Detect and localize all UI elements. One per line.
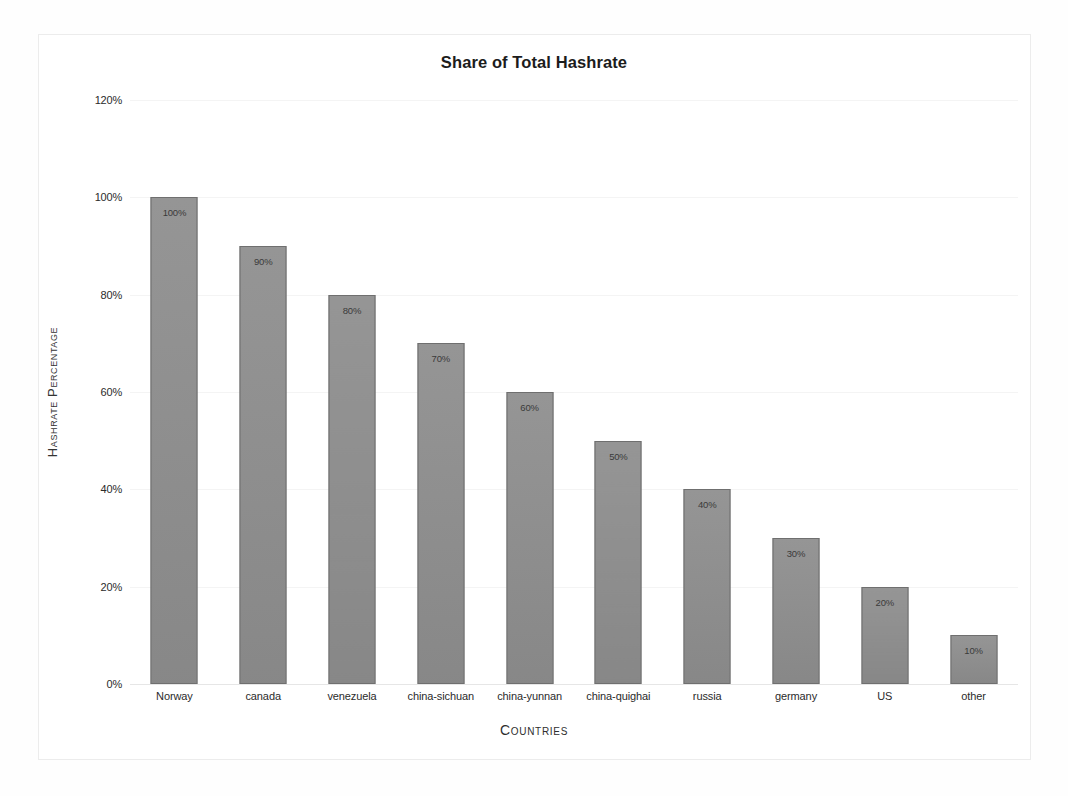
y-axis-tick: 60%	[101, 386, 122, 398]
bar-value-label: 100%	[152, 207, 197, 218]
x-axis-tick: Norway	[156, 690, 193, 702]
bar[interactable]: 100%	[151, 197, 198, 684]
bar-slot: 20%	[840, 100, 929, 684]
y-axis-tick: 0%	[107, 678, 123, 690]
bar-value-label: 60%	[507, 402, 552, 413]
x-axis-tick: china-quighai	[586, 690, 650, 702]
y-axis-tick-labels: 0%20%40%60%80%100%120%	[60, 100, 122, 684]
x-axis-tick: canada	[245, 690, 281, 702]
x-axis-tick: germany	[775, 690, 817, 702]
x-axis-title: Countries	[0, 722, 1068, 738]
bar-slot: 30%	[752, 100, 841, 684]
bar-slot: 100%	[130, 100, 219, 684]
y-axis-title: Hashrate Percentage	[45, 327, 60, 457]
bar-value-label: 70%	[418, 353, 463, 364]
bar-slot: 90%	[219, 100, 308, 684]
bar-slot: 10%	[929, 100, 1018, 684]
bar[interactable]: 40%	[684, 489, 731, 684]
y-axis-tick: 40%	[101, 483, 122, 495]
x-axis-tick-labels: Norwaycanadavenezuelachina-sichuanchina-…	[130, 690, 1018, 712]
x-axis-tick: US	[877, 690, 892, 702]
bar[interactable]: 90%	[240, 246, 287, 684]
y-axis-tick: 80%	[101, 289, 122, 301]
bar-slot: 60%	[485, 100, 574, 684]
bar[interactable]: 80%	[328, 295, 375, 684]
bar-value-label: 10%	[951, 645, 996, 656]
bar-value-label: 30%	[773, 548, 818, 559]
x-axis-tick: other	[961, 690, 986, 702]
bar-value-label: 90%	[241, 256, 286, 267]
bar[interactable]: 20%	[861, 587, 908, 684]
bar[interactable]: 30%	[772, 538, 819, 684]
bar[interactable]: 10%	[950, 635, 997, 684]
bar-value-label: 20%	[862, 597, 907, 608]
bar-slot: 50%	[574, 100, 663, 684]
bar[interactable]: 50%	[595, 441, 642, 684]
x-axis-tick: russia	[693, 690, 722, 702]
x-axis-tick: china-yunnan	[497, 690, 562, 702]
y-axis-tick: 120%	[95, 94, 122, 106]
chart-title: Share of Total Hashrate	[0, 53, 1068, 72]
x-axis-tick: china-sichuan	[408, 690, 475, 702]
bar[interactable]: 70%	[417, 343, 464, 684]
bar-value-label: 80%	[329, 305, 374, 316]
chart-page: Share of Total Hashrate Hashrate Percent…	[0, 0, 1068, 796]
y-axis-tick: 100%	[95, 191, 122, 203]
gridline	[130, 684, 1018, 685]
bar-series: 100%90%80%70%60%50%40%30%20%10%	[130, 100, 1018, 684]
bar-slot: 80%	[308, 100, 397, 684]
bar-slot: 40%	[663, 100, 752, 684]
bar[interactable]: 60%	[506, 392, 553, 684]
y-axis-tick: 20%	[101, 581, 122, 593]
bar-slot: 70%	[396, 100, 485, 684]
bar-value-label: 50%	[596, 451, 641, 462]
bar-value-label: 40%	[685, 499, 730, 510]
x-axis-tick: venezuela	[327, 690, 376, 702]
